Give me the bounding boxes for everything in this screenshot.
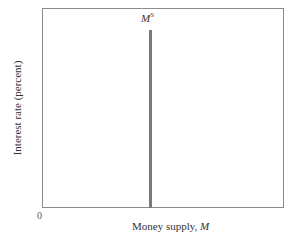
y-axis-label: Interest rate (percent) xyxy=(11,61,23,156)
curve-label-main: M xyxy=(141,12,150,24)
money-supply-curve xyxy=(149,30,152,208)
x-axis-label: Money supply, M xyxy=(132,220,209,232)
origin-label: 0 xyxy=(37,210,42,221)
x-axis-variable: M xyxy=(200,220,209,232)
x-axis-label-text: Money supply, xyxy=(132,220,200,232)
plot-area xyxy=(42,8,284,208)
money-supply-curve-label: MS xyxy=(141,11,154,24)
curve-label-superscript: S xyxy=(150,11,154,19)
